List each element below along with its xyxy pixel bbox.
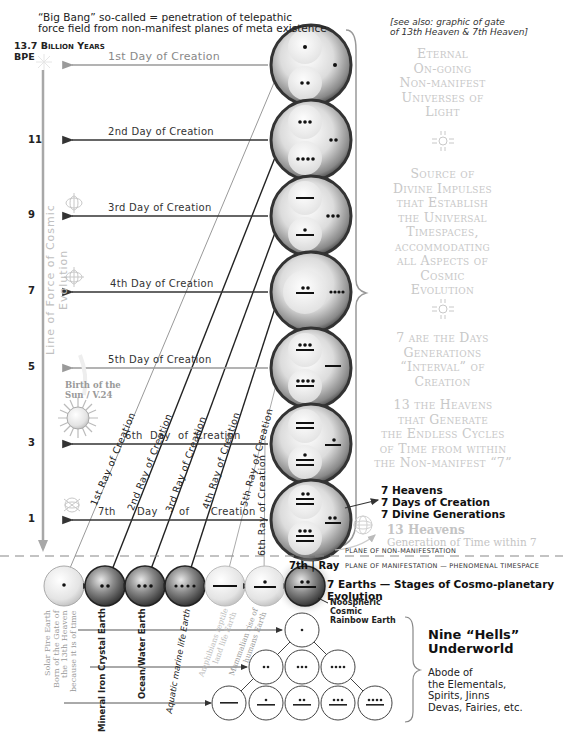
ray-label-6: 6th Ray of Creation (256, 454, 267, 556)
earth-label-2: Mineral Iron Crystal Earth (98, 608, 107, 738)
noospheric-label: Noospheric Cosmic Rainbow Earth (330, 598, 396, 625)
ray-label-7: 7th | Ray (289, 560, 339, 571)
underworld-title: Nine “Hells” Underworld (428, 628, 519, 656)
day-label-5: 5th Day of Creation (108, 354, 212, 365)
axis-tick: 5 (28, 361, 35, 372)
see-also-note: [see also: graphic of gate of 13th Heave… (390, 17, 528, 37)
earth-label-3: Ocean/Water Earth (138, 608, 147, 708)
axis-tick: 3 (28, 437, 35, 448)
right-block-divine-impulses: Source ofDivine Impulsesthat Establishth… (380, 167, 505, 298)
day-label-7: 7th Day of Creation (98, 506, 256, 517)
earth-label-1: Solar Fire Earth Born of the Gate of the… (44, 610, 78, 730)
right-block-days: 7 are the DaysGenerations“Interval” ofCr… (385, 331, 500, 389)
axis-tick: 7 (28, 285, 35, 296)
right-block-heavens: 13 the Heavensthat Generatethe Endless C… (368, 398, 518, 471)
seven-heavens-list: 7 Heavens 7 Days of Creation 7 Divine Ge… (381, 484, 505, 520)
axis-tick: 11 (28, 134, 42, 145)
day-label-2: 2nd Day of Creation (108, 126, 214, 137)
axis-label: Line of Force of Cosmic Evolution (44, 180, 70, 380)
right-block-universes: EternalOn-goingNon-manifestUniverses ofL… (385, 47, 500, 120)
underworld-description: Abode of the Elementals, Spirits, Jinns … (428, 667, 523, 713)
axis-tick: 1 (28, 513, 35, 524)
sun-label: Birth of the Sun / V.24 (65, 380, 121, 400)
underworld-brace (405, 617, 420, 722)
globe-icon (354, 516, 372, 534)
thirteen-heavens-label: 13 Heavens Generation of Time within 7 (387, 524, 537, 548)
day-label-3: 3rd Day of Creation (108, 202, 212, 213)
big-bang-note: “Big Bang” so-called = penetration of te… (38, 12, 327, 34)
plane-non-manifestation: Plane of Non-manifestation (345, 547, 456, 555)
plane-manifestation: Plane of Manifestation — Phenomenal Time… (345, 562, 539, 570)
axis-tick: 9 (28, 209, 35, 220)
day-label-4: 4th Day of Creation (110, 278, 214, 289)
heaven-spheres (271, 25, 351, 560)
day-label-1: 1st Day of Creation (108, 50, 220, 63)
time-marker: 13.7 Billion Years BPE (14, 40, 105, 62)
